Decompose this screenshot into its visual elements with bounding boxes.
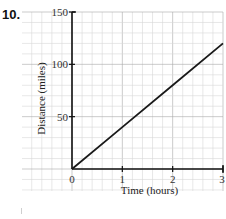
graph-paper-grid: [22, 12, 223, 191]
distance-time-graph: 012350100150Time (hours)Distance (miles): [0, 0, 226, 219]
stray-mark: [21, 208, 22, 214]
x-tick-label: 3: [219, 173, 225, 185]
y-axis-title: Distance (miles): [35, 62, 48, 135]
y-tick-label: 50: [57, 111, 69, 123]
x-axis-title: Time (hours): [121, 184, 179, 197]
x-tick-label: 0: [69, 173, 75, 185]
y-tick-label: 150: [52, 6, 69, 18]
y-tick-label: 100: [52, 58, 69, 70]
